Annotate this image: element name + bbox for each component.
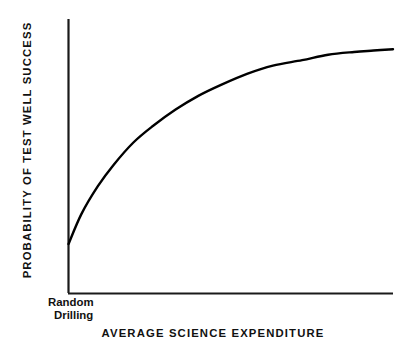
origin-annotation-line1: Random [48,296,94,308]
origin-annotation: Random Drilling [48,296,94,323]
origin-annotation-line2: Drilling [48,309,94,322]
data-curve [69,49,394,244]
x-axis-title: AVERAGE SCIENCE EXPENDITURE [68,327,358,339]
chart-figure: PROBABILITY OF TEST WELL SUCCESS Random … [0,0,416,348]
